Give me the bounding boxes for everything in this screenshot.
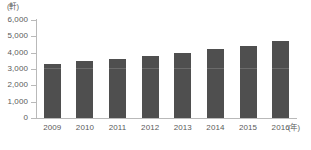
- bar: [207, 49, 224, 118]
- bar-gridline-overlay: [207, 68, 224, 69]
- bar: [44, 64, 61, 118]
- x-axis-tick-label: 2012: [133, 123, 167, 132]
- bar-gridline-overlay: [44, 68, 61, 69]
- x-axis-tick-label: 2009: [35, 123, 69, 132]
- bar: [76, 61, 93, 118]
- y-axis-tick-label: 6,000: [7, 16, 28, 24]
- bar-gridline-overlay: [272, 68, 289, 69]
- y-axis-tick: [31, 118, 36, 119]
- x-axis-tick-label: 2011: [101, 123, 135, 132]
- bar: [240, 46, 257, 118]
- bar-gridline-overlay: [109, 68, 126, 69]
- x-axis-tick-label: 2014: [198, 123, 232, 132]
- bar-gridline-overlay: [142, 68, 159, 69]
- plot-area: [36, 20, 297, 118]
- bar-gridline-overlay: [174, 68, 191, 69]
- y-axis-tick-label: 0: [23, 114, 28, 122]
- y-axis-unit-label: (軒): [7, 2, 19, 12]
- bar: [174, 53, 191, 118]
- bar-gridline-overlay: [76, 68, 93, 69]
- x-axis-tick-label: 2010: [68, 123, 102, 132]
- y-axis-tick-label: 2,000: [7, 81, 28, 89]
- bar-gridline-overlay: [240, 68, 257, 69]
- bar: [272, 41, 289, 118]
- y-axis-tick-label: 1,000: [7, 98, 28, 106]
- bar: [142, 56, 159, 118]
- y-axis-tick-label: 3,000: [7, 65, 28, 73]
- x-axis-tick-label: 2013: [166, 123, 200, 132]
- y-axis-tick-label: 5,000: [7, 32, 28, 40]
- y-axis-tick-label: 4,000: [7, 49, 28, 57]
- bar: [109, 59, 126, 118]
- x-axis-unit-label: (年): [288, 123, 300, 132]
- x-axis-tick-label: 2015: [231, 123, 265, 132]
- bar-chart: (軒) 6,0005,0004,0003,0002,0001,0000 2009…: [0, 0, 311, 150]
- x-axis-line: [36, 118, 297, 119]
